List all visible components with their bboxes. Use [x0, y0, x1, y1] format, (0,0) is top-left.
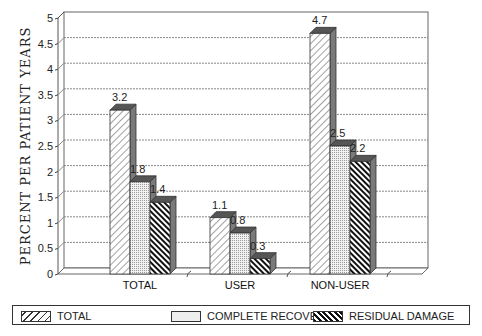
bar-chart: 00.511.522.533.544.55 3.21.81.41.10.80.3…	[0, 0, 482, 300]
bar	[310, 33, 330, 274]
data-label: 4.7	[312, 14, 327, 26]
data-label: 0.8	[230, 214, 245, 226]
data-label: 1.8	[130, 163, 145, 175]
y-tick-label: 5	[47, 12, 53, 24]
data-label: 0.3	[250, 240, 265, 252]
y-tick-label: 4.5	[38, 38, 53, 50]
data-label: 1.1	[212, 199, 227, 211]
y-tick-label: 2	[47, 166, 53, 178]
data-label: 1.4	[150, 183, 165, 195]
bar	[150, 202, 170, 274]
legend-item-residual-damage: RESIDUAL DAMAGE	[313, 309, 454, 323]
legend-swatch-residual-icon	[313, 311, 343, 322]
y-tick-label: 4	[47, 63, 53, 75]
bar	[330, 146, 350, 274]
legend-item-complete-recovery: COMPLETE RECOVERY	[171, 309, 332, 323]
legend-label: TOTAL	[57, 310, 91, 322]
y-tick-label: 2.5	[38, 140, 53, 152]
data-label: 2.2	[350, 142, 365, 154]
x-category-label: NON-USER	[311, 279, 370, 291]
x-axis-categories: TOTALUSERNON-USER	[123, 279, 370, 291]
bar	[230, 233, 250, 274]
bar	[210, 218, 230, 274]
y-tick-label: 0	[47, 268, 53, 280]
legend-label: RESIDUAL DAMAGE	[349, 310, 454, 322]
y-axis-label: PERCENT PER PATIENT YEARS	[18, 27, 33, 266]
legend-item-total: TOTAL	[21, 309, 91, 323]
x-category-label: TOTAL	[123, 279, 157, 291]
y-tick-label: 1.5	[38, 191, 53, 203]
data-label: 3.2	[112, 91, 127, 103]
y-tick-label: 1	[47, 217, 53, 229]
bar	[110, 110, 130, 274]
legend-swatch-recovery-icon	[171, 311, 201, 322]
bar	[250, 259, 270, 274]
legend-swatch-total-icon	[21, 311, 51, 322]
y-tick-label: 3	[47, 114, 53, 126]
y-tick-label: 3.5	[38, 89, 53, 101]
y-axis-ticks: 00.511.522.533.544.55	[38, 12, 58, 280]
y-tick-label: 0.5	[38, 242, 53, 254]
bar	[130, 182, 150, 274]
x-category-label: USER	[225, 279, 256, 291]
legend: TOTAL COMPLETE RECOVERY RESIDUAL DAMAGE	[12, 305, 470, 325]
bar	[350, 161, 370, 274]
data-label: 2.5	[330, 127, 345, 139]
